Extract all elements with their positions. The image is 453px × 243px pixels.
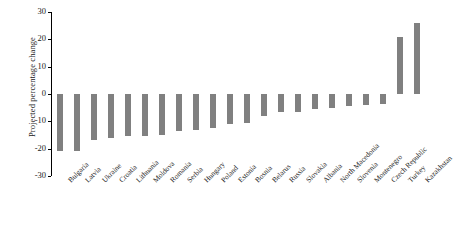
bar [244, 94, 250, 123]
bar [346, 94, 352, 106]
bar [57, 94, 63, 151]
bar [159, 94, 165, 135]
y-tick-mark [48, 176, 51, 177]
bar [261, 94, 267, 116]
bar [91, 94, 97, 140]
bar [176, 94, 182, 131]
y-tick-label: 30 [38, 6, 47, 16]
bar [108, 94, 114, 138]
y-tick-label: -20 [35, 143, 46, 153]
y-tick-label: 0 [42, 88, 46, 98]
bar [312, 94, 318, 109]
bar [142, 94, 148, 136]
bar [278, 94, 284, 112]
bar [397, 37, 403, 94]
bar [363, 94, 369, 105]
bar [193, 94, 199, 130]
x-axis-labels: BulgariaLatviaUkraineCroatiaLithuaniaMol… [51, 178, 429, 243]
bar [414, 23, 420, 94]
bar [227, 94, 233, 124]
bar [125, 94, 131, 136]
bar [380, 94, 386, 104]
y-tick-label: 10 [38, 61, 47, 71]
bar [74, 94, 80, 151]
y-tick-label: -10 [35, 115, 46, 125]
y-tick-label: -30 [35, 170, 46, 180]
bar [329, 94, 335, 108]
bar [210, 94, 216, 128]
bar [295, 94, 301, 112]
y-tick-label: 20 [38, 33, 47, 43]
